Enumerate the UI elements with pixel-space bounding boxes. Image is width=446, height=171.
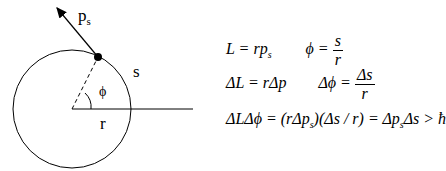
angle-label: ϕ <box>99 84 106 100</box>
equation-row-2: ΔL = rΔp Δϕ = Δsr <box>226 66 375 103</box>
arc-label: s <box>133 62 140 82</box>
radius-label: r <box>100 114 106 134</box>
angle-arc <box>85 93 91 109</box>
equation-row-1: L = rps ϕ = sr <box>226 32 343 69</box>
radius-dashed <box>72 57 98 109</box>
particle-dot <box>94 53 102 61</box>
momentum-label: ps <box>78 6 91 27</box>
equation-row-3: ΔLΔϕ = (rΔps)(Δs / r) = ΔpsΔs > ħ <box>226 110 446 130</box>
